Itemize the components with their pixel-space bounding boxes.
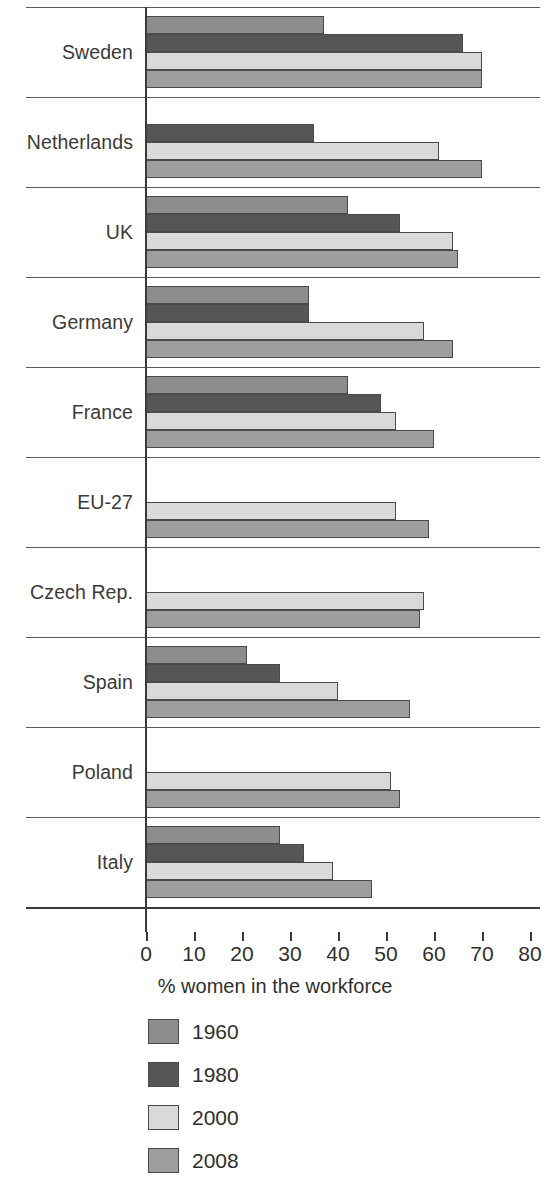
bar-group	[146, 556, 546, 632]
category-label-uk: UK	[0, 187, 133, 277]
x-tick-label: 60	[422, 942, 445, 966]
legend-swatch-icon	[148, 1062, 179, 1087]
chart-legend: 1960198020002008	[148, 1010, 408, 1182]
bar-2000	[146, 682, 338, 700]
x-tick-label: 0	[140, 942, 152, 966]
bar-group	[146, 16, 546, 92]
x-tick-label: 70	[470, 942, 493, 966]
bar-2008	[146, 790, 400, 808]
category-row: Sweden	[0, 7, 550, 97]
bar-2000	[146, 142, 439, 160]
bar-2008	[146, 70, 482, 88]
category-row: Poland	[0, 727, 550, 817]
bar-1960	[146, 286, 309, 304]
y-axis-line	[145, 7, 147, 932]
category-label-poland: Poland	[0, 727, 133, 817]
category-row: Italy	[0, 817, 550, 907]
legend-label: 1960	[192, 1020, 239, 1044]
category-row: UK	[0, 187, 550, 277]
bar-1980	[146, 34, 463, 52]
x-axis-baseline	[26, 907, 540, 909]
bar-2008	[146, 610, 420, 628]
bar-1980	[146, 214, 400, 232]
legend-swatch-icon	[148, 1148, 179, 1173]
bar-1960	[146, 826, 280, 844]
bar-group	[146, 196, 546, 272]
category-label-czech-rep: Czech Rep.	[0, 547, 133, 637]
x-tick	[386, 932, 388, 941]
bar-chart: SwedenNetherlandsUKGermanyFranceEU-27Cze…	[0, 0, 550, 1184]
x-tick-label: 40	[326, 942, 349, 966]
legend-swatch-icon	[148, 1105, 179, 1130]
bar-group	[146, 646, 546, 722]
bar-group	[146, 826, 546, 902]
bar-2000	[146, 412, 396, 430]
bar-2000	[146, 592, 424, 610]
bar-1960	[146, 16, 324, 34]
category-label-italy: Italy	[0, 817, 133, 907]
category-label-eu-27: EU-27	[0, 457, 133, 547]
bar-2008	[146, 160, 482, 178]
x-tick	[434, 932, 436, 941]
legend-label: 1980	[192, 1063, 239, 1087]
category-label-germany: Germany	[0, 277, 133, 367]
bar-group	[146, 106, 546, 182]
bar-1980	[146, 844, 304, 862]
bar-group	[146, 286, 546, 362]
x-tick-label: 20	[230, 942, 253, 966]
bar-1960	[146, 376, 348, 394]
x-tick-label: 10	[182, 942, 205, 966]
bar-2008	[146, 700, 410, 718]
bar-2008	[146, 520, 429, 538]
legend-item-2000: 2000	[148, 1096, 408, 1139]
legend-item-1960: 1960	[148, 1010, 408, 1053]
legend-swatch-icon	[148, 1019, 179, 1044]
bar-1980	[146, 304, 309, 322]
legend-item-2008: 2008	[148, 1139, 408, 1182]
category-row: Netherlands	[0, 97, 550, 187]
bar-2000	[146, 502, 396, 520]
x-tick	[194, 932, 196, 941]
bar-1980	[146, 124, 314, 142]
bar-1960	[146, 646, 247, 664]
bar-1960	[146, 196, 348, 214]
legend-label: 2000	[192, 1106, 239, 1130]
category-row: Czech Rep.	[0, 547, 550, 637]
bar-group	[146, 736, 546, 812]
bar-group	[146, 466, 546, 542]
x-tick	[338, 932, 340, 941]
bar-2008	[146, 430, 434, 448]
bar-1980	[146, 394, 381, 412]
plot-area: SwedenNetherlandsUKGermanyFranceEU-27Cze…	[0, 0, 550, 940]
x-tick	[242, 932, 244, 941]
x-axis-title: % women in the workforce	[0, 975, 550, 998]
bar-2000	[146, 52, 482, 70]
category-row: Spain	[0, 637, 550, 727]
bar-2000	[146, 322, 424, 340]
category-label-france: France	[0, 367, 133, 457]
category-label-spain: Spain	[0, 637, 133, 727]
x-tick-label: 30	[278, 942, 301, 966]
x-tick	[530, 932, 532, 941]
x-tick	[290, 932, 292, 941]
bar-group	[146, 376, 546, 452]
category-label-netherlands: Netherlands	[0, 97, 133, 187]
bar-2008	[146, 340, 453, 358]
bar-2008	[146, 250, 458, 268]
bar-2000	[146, 862, 333, 880]
category-row: Germany	[0, 277, 550, 367]
category-label-sweden: Sweden	[0, 7, 133, 97]
legend-label: 2008	[192, 1149, 239, 1173]
x-tick-label: 80	[518, 942, 541, 966]
category-row: EU-27	[0, 457, 550, 547]
x-tick	[482, 932, 484, 941]
category-row: France	[0, 367, 550, 457]
x-tick	[146, 932, 148, 941]
bar-2000	[146, 232, 453, 250]
bar-1980	[146, 664, 280, 682]
bar-2000	[146, 772, 391, 790]
legend-item-1980: 1980	[148, 1053, 408, 1096]
bar-2008	[146, 880, 372, 898]
x-tick-label: 50	[374, 942, 397, 966]
